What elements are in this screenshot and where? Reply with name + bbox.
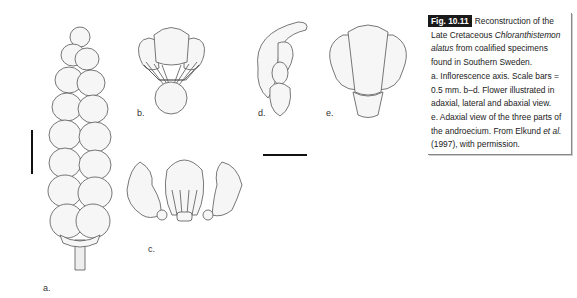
caption-citation-etal: et al. xyxy=(543,126,561,136)
caption-text: Late Cretaceous xyxy=(431,30,495,40)
figure-number-label: Fig. 10.11 xyxy=(428,15,472,27)
panel-label-b: b. xyxy=(137,108,145,118)
caption-line: e. Adaxial view of the three parts of xyxy=(431,111,571,125)
caption-line: alatus from coalified specimens xyxy=(431,42,571,56)
caption-text: the androecium. From Elkund xyxy=(431,126,543,136)
panel-label-c: c. xyxy=(148,244,155,254)
species-name-genus: Chloranthistemon xyxy=(495,30,561,40)
caption-line: adaxial, lateral and abaxial view. xyxy=(431,97,571,111)
flower-adaxial-drawing xyxy=(134,20,209,120)
flower-abaxial-drawing xyxy=(323,20,413,120)
caption-line: the androecium. From Elkund et al. xyxy=(431,125,571,139)
caption-line: Fig. 10.11Reconstruction of the xyxy=(431,15,571,29)
caption-line: found in Southern Sweden. xyxy=(431,56,571,70)
caption-line: Late Cretaceous Chloranthistemon xyxy=(431,29,571,43)
caption-text: from coalified specimens xyxy=(453,43,548,53)
caption-line: a. Inflorescence axis. Scale bars = xyxy=(431,70,571,84)
figure-caption: Fig. 10.11Reconstruction of the Late Cre… xyxy=(428,13,572,155)
caption-text: Reconstruction of the xyxy=(475,16,554,26)
flower-lateral-drawing xyxy=(248,18,313,118)
botanical-figure: a. b. d. e. xyxy=(0,0,420,298)
inflorescence-axis-drawing xyxy=(45,25,115,285)
panel-label-a: a. xyxy=(43,283,51,293)
scale-bar-horizontal xyxy=(263,154,307,156)
scale-bar-vertical xyxy=(31,130,33,174)
caption-line: 0.5 mm. b–d. Flower illustrated in xyxy=(431,84,571,98)
androecium-drawing xyxy=(122,150,252,240)
species-name-epithet: alatus xyxy=(431,43,453,53)
panel-label-e: e. xyxy=(326,108,334,118)
caption-line: (1997), with permission. xyxy=(431,138,571,152)
panel-label-d: d. xyxy=(258,108,266,118)
